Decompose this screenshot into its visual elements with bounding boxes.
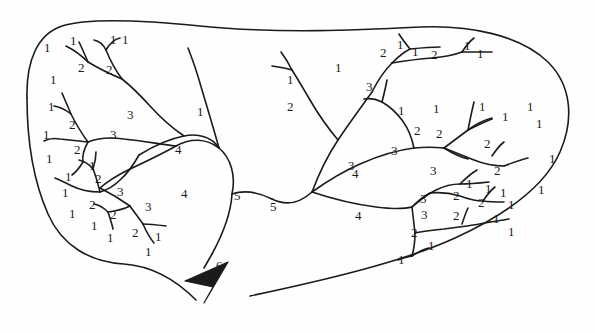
order-label: 1 bbox=[69, 207, 76, 220]
order-label: 2 bbox=[74, 143, 81, 156]
order-label: 1 bbox=[493, 212, 500, 225]
order-label: 2 bbox=[132, 226, 139, 239]
order-label: 2 bbox=[287, 100, 294, 113]
order-label: 2 bbox=[110, 208, 117, 221]
order-label: 1 bbox=[43, 128, 50, 141]
order-label: 4 bbox=[352, 167, 359, 180]
order-label: 3 bbox=[421, 208, 428, 221]
order-label: 1 bbox=[477, 47, 484, 60]
order-label: 2 bbox=[69, 118, 76, 131]
order-label: 1 bbox=[549, 152, 556, 165]
order-label: 2 bbox=[453, 189, 460, 202]
order-label: 1 bbox=[500, 186, 507, 199]
order-label: 4 bbox=[355, 209, 362, 222]
order-label: 1 bbox=[91, 219, 98, 232]
order-label: 3 bbox=[391, 144, 398, 157]
order-label: 1 bbox=[70, 34, 77, 47]
order-label: 1 bbox=[398, 104, 405, 117]
order-label: 1 bbox=[155, 230, 162, 243]
order-label: 2 bbox=[380, 46, 387, 59]
order-label: 1 bbox=[538, 183, 545, 196]
order-label: 1 bbox=[479, 100, 486, 113]
order-label: 2 bbox=[106, 63, 113, 76]
order-label: 2 bbox=[411, 226, 418, 239]
order2-1-right-mid bbox=[444, 102, 528, 166]
order-label: 3 bbox=[420, 192, 427, 205]
order-label: 1 bbox=[527, 100, 534, 113]
order-label: 3 bbox=[366, 80, 373, 93]
order-label: 1 bbox=[50, 73, 57, 86]
order-label: 1 bbox=[197, 105, 204, 118]
order3-left-upper bbox=[88, 79, 184, 146]
order-label: 3 bbox=[110, 128, 117, 141]
order-label: 5 bbox=[270, 200, 277, 213]
order1-central-long bbox=[188, 48, 219, 148]
order-label: 1 bbox=[412, 45, 419, 58]
order-label: 2 bbox=[484, 137, 491, 150]
order-label: 1 bbox=[397, 38, 404, 51]
order-label: 1 bbox=[466, 177, 473, 190]
order-label: 1 bbox=[110, 33, 117, 46]
order-label: 3 bbox=[127, 108, 134, 121]
order1-right-center bbox=[272, 52, 338, 140]
order-label: 3 bbox=[117, 185, 124, 198]
order-label: 2 bbox=[453, 209, 460, 222]
order-label: 2 bbox=[95, 172, 102, 185]
order-label: 1 bbox=[145, 245, 152, 258]
order-label: 6 bbox=[216, 259, 223, 272]
order-label: 1 bbox=[428, 239, 435, 252]
order-label: 1 bbox=[485, 182, 492, 195]
order-label: 2 bbox=[478, 196, 485, 209]
order-label: 1 bbox=[508, 225, 515, 238]
order-label: 1 bbox=[508, 198, 515, 211]
order-label: 1 bbox=[44, 41, 51, 54]
order-label: 1 bbox=[536, 117, 543, 130]
order-label: 2 bbox=[78, 61, 85, 74]
order-label: 4 bbox=[181, 187, 188, 200]
order-label: 1 bbox=[107, 231, 114, 244]
main-stem-order6 bbox=[185, 194, 232, 303]
order-label: 2 bbox=[431, 48, 438, 61]
order-label: 2 bbox=[414, 124, 421, 137]
order-label: 2 bbox=[89, 198, 96, 211]
order-label: 1 bbox=[433, 102, 440, 115]
order-label: 1 bbox=[48, 100, 55, 113]
order-label: 1 bbox=[287, 73, 294, 86]
stream-order-diagram: 1111221123312111231211213211441556121321… bbox=[0, 0, 595, 333]
order-label: 1 bbox=[398, 253, 405, 266]
order-label: 1 bbox=[502, 110, 509, 123]
order-label: 3 bbox=[430, 164, 437, 177]
order-label: 2 bbox=[494, 164, 501, 177]
order-label: 3 bbox=[145, 200, 152, 213]
order-label: 1 bbox=[65, 170, 72, 183]
order-label: 4 bbox=[175, 143, 182, 156]
order-label: 1 bbox=[335, 61, 342, 74]
order-label: 1 bbox=[122, 33, 129, 46]
order-label: 5 bbox=[234, 189, 241, 202]
order-label: 1 bbox=[62, 186, 69, 199]
order-label: 1 bbox=[46, 152, 53, 165]
order-label: 2 bbox=[436, 127, 443, 140]
order-label: 1 bbox=[464, 39, 471, 52]
